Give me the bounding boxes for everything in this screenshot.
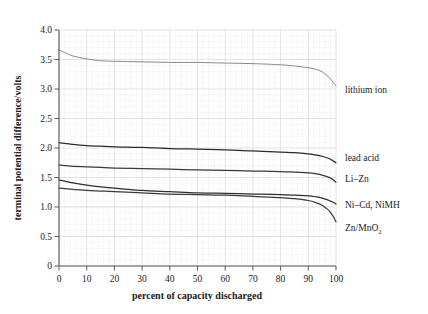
series-label-ni-cd-nimh: Ni–Cd, NiMH [345, 200, 400, 210]
series-label-subscript: 2 [378, 228, 382, 235]
series-label-lithium-ion: lithium ion [345, 85, 387, 95]
y-tick-label: 1.5 [40, 173, 52, 183]
y-tick-label: 3.0 [40, 84, 52, 94]
x-tick-label: 80 [276, 274, 286, 284]
x-tick-label: 0 [57, 274, 62, 284]
x-tick-label: 20 [110, 274, 120, 284]
x-axis-title: percent of capacity discharged [132, 290, 263, 301]
x-tick-label: 40 [165, 274, 175, 284]
x-tick-label: 90 [304, 274, 314, 284]
series-label-li-zn: Li–Zn [345, 174, 369, 184]
battery-discharge-line-chart: 0102030405060708090100 00.51.01.52.02.53… [0, 0, 428, 314]
y-tick-label: 2.5 [40, 114, 52, 124]
x-tick-label: 100 [329, 274, 344, 284]
x-tick-label: 50 [193, 274, 203, 284]
y-tick-label: 3.5 [40, 55, 52, 65]
y-tick-label: 0.5 [40, 232, 52, 242]
x-tick-label: 30 [137, 274, 147, 284]
chart-figure: 0102030405060708090100 00.51.01.52.02.53… [0, 0, 428, 314]
y-tick-label: 1.0 [40, 202, 52, 212]
x-tick-label: 10 [82, 274, 92, 284]
x-tick-label: 70 [248, 274, 258, 284]
y-axis-title: terminal potential difference/volts [12, 76, 23, 221]
y-tick-label: 4.0 [40, 25, 52, 35]
x-tick-label: 60 [220, 274, 230, 284]
series-label-lead-acid: lead acid [345, 153, 379, 163]
y-tick-label: 2.0 [40, 143, 52, 153]
series-label-zn-mno2: Zn/MnO2 [345, 223, 382, 235]
y-tick-label: 0 [47, 261, 52, 271]
